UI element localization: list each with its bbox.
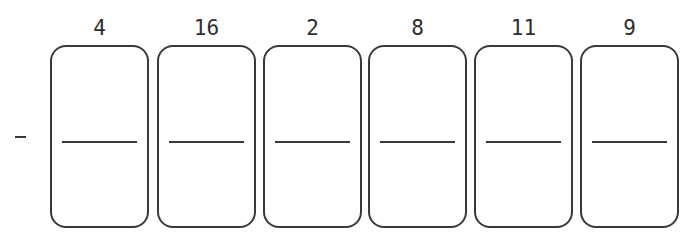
answer-line — [275, 141, 350, 143]
card-column: 8 — [368, 0, 467, 237]
card-column: 16 — [157, 0, 256, 237]
card-number: 16 — [157, 16, 256, 40]
card-number: 8 — [368, 16, 467, 40]
minus-sign — [15, 136, 26, 138]
card-column: 4 — [50, 0, 149, 237]
answer-card[interactable] — [50, 45, 149, 228]
card-number: 4 — [50, 16, 149, 40]
card-number: 11 — [474, 16, 573, 40]
card-number: 2 — [263, 16, 362, 40]
card-column: 2 — [263, 0, 362, 237]
answer-line — [592, 141, 667, 143]
card-column: 11 — [474, 0, 573, 237]
answer-card[interactable] — [580, 45, 679, 228]
card-number: 9 — [580, 16, 679, 40]
card-column: 9 — [580, 0, 679, 237]
answer-line — [169, 141, 244, 143]
answer-card[interactable] — [157, 45, 256, 228]
answer-line — [380, 141, 455, 143]
answer-card[interactable] — [474, 45, 573, 228]
answer-card[interactable] — [368, 45, 467, 228]
answer-card[interactable] — [263, 45, 362, 228]
answer-line — [62, 141, 137, 143]
answer-line — [486, 141, 561, 143]
